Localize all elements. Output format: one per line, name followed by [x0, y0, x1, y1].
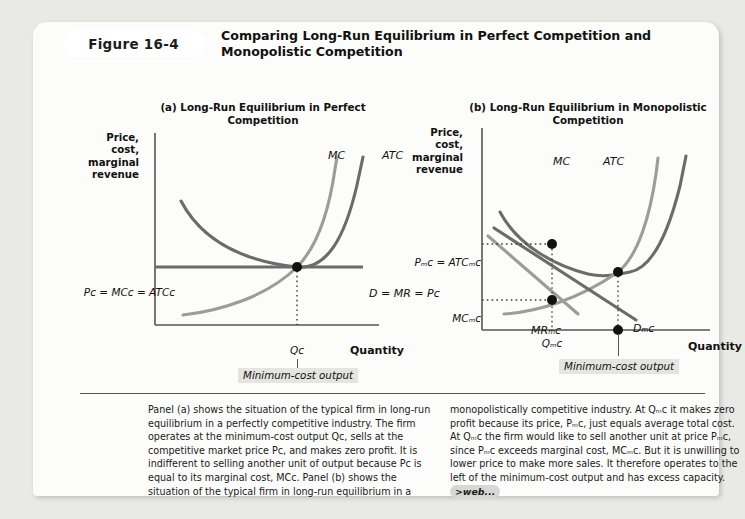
panel-a-chart: [141, 129, 386, 344]
panel-a-title: (a) Long-Run Equilibrium in Perfect Comp…: [138, 101, 388, 126]
panel-a-equilibrium-point: [292, 262, 302, 272]
panel-a-x-axis-name: Quantity: [350, 344, 404, 357]
caption-right-text: monopolistically competitive industry. A…: [450, 404, 739, 483]
panel-a-mc-label: MC: [328, 149, 345, 162]
panel-a-minimum-cost-annotation: Minimum-cost output: [238, 368, 358, 383]
panel-a-atc-label: ATC: [382, 149, 403, 162]
panel-b-mr-label: MRₘᴄ: [531, 324, 561, 337]
caption-left-text: Panel (a) shows the situation of the typ…: [148, 404, 430, 497]
figure-title: Comparing Long-Run Equilibrium in Perfec…: [221, 28, 691, 59]
panel-b-mc-curve: [504, 158, 658, 314]
panel-a-mc-curve: [183, 157, 337, 315]
panel-b-atc-label: ATC: [603, 155, 624, 168]
panel-b-title: (b) Long-Run Equilibrium in Monopolistic…: [463, 101, 713, 126]
caption-left-column: Panel (a) shows the situation of the typ…: [148, 403, 436, 498]
web-link-badge[interactable]: >web...: [450, 485, 500, 499]
panel-b-quantity-label: Qₘᴄ: [534, 337, 570, 349]
panel-b-atc-minimum-point: [613, 267, 623, 277]
panel-b-price-label: Pₘᴄ = ATCₘᴄ: [401, 256, 481, 268]
panel-b-marginal-cost-label: MCₘᴄ: [411, 312, 481, 324]
panel-a-price-label: Pᴄ = MCᴄ = ATCᴄ: [63, 286, 175, 298]
caption-divider: [80, 393, 705, 394]
panel-b-mr-mc-point: [547, 295, 557, 305]
panel-a-quantity-label: Qᴄ: [279, 344, 315, 356]
figure-number-box: Figure 16-4: [63, 30, 204, 57]
figure-header: Figure 16-4 Comparing Long-Run Equilibri…: [33, 22, 719, 66]
panel-b-chart: [466, 124, 716, 349]
caption-right-column: monopolistically competitive industry. A…: [450, 403, 745, 498]
panel-b-demand-label: Dₘᴄ: [633, 322, 654, 335]
panel-b-x-axis-name: Quantity: [688, 340, 742, 353]
figure-number: Figure 16-4: [88, 36, 179, 52]
figure-page: Figure 16-4 Comparing Long-Run Equilibri…: [0, 0, 745, 519]
panel-a-y-axis-label: Price, cost, marginal revenue: [61, 132, 139, 182]
figure-card: Figure 16-4 Comparing Long-Run Equilibri…: [33, 22, 719, 496]
panel-b-equilibrium-point: [547, 239, 557, 249]
panel-b-minimum-cost-annotation: Minimum-cost output: [559, 359, 679, 374]
panel-b-mc-label: MC: [553, 155, 570, 168]
panel-b-atc-curve: [500, 156, 686, 276]
panel-a-demand-label: D = MR = Pᴄ: [369, 287, 440, 300]
panel-b-annotation-stem: [618, 334, 619, 356]
